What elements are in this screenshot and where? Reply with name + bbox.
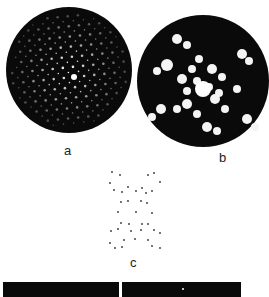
diffraction-spot	[121, 50, 124, 53]
diffraction-spot	[55, 98, 58, 101]
diffraction-spot	[47, 74, 49, 76]
diffraction-spot	[77, 14, 80, 17]
image-motif	[183, 41, 191, 49]
diffraction-spot	[32, 24, 34, 26]
diffraction-spot	[52, 114, 54, 116]
diffraction-spot	[19, 51, 22, 54]
diffraction-spot	[99, 32, 102, 35]
bottom-image-strip-right	[122, 282, 241, 297]
diffraction-spot	[100, 42, 103, 45]
diffraction-spot	[78, 71, 80, 73]
schematic-dot	[141, 187, 143, 189]
diffraction-spot	[39, 48, 42, 51]
diffraction-spot	[42, 79, 45, 82]
diffraction-spot	[25, 56, 27, 58]
diffraction-spot	[83, 121, 85, 123]
diffraction-spot	[28, 86, 30, 88]
schematic-dot	[110, 230, 112, 232]
diffraction-spot	[98, 69, 100, 71]
diffraction-spot	[37, 75, 39, 77]
schematic-dot	[159, 247, 161, 249]
diffraction-spot	[75, 96, 78, 99]
diffraction-spot	[97, 114, 100, 117]
diffraction-spot	[44, 99, 47, 102]
diffraction-spot	[49, 94, 51, 96]
diffraction-spot	[72, 112, 74, 114]
schematic-dot	[151, 212, 153, 214]
image-motif	[183, 87, 191, 95]
diffraction-spot	[93, 74, 96, 77]
image-motif	[148, 113, 156, 121]
diffraction-spot	[98, 22, 101, 25]
diffraction-spot	[92, 63, 95, 66]
image-motif	[242, 114, 252, 124]
diffraction-spot	[53, 124, 55, 126]
diffraction-spot	[46, 119, 49, 122]
diffraction-spot	[63, 31, 65, 33]
schematic-dot	[153, 172, 155, 174]
schematic-dot	[159, 181, 161, 183]
diffraction-spot	[105, 93, 108, 96]
diffraction-spot	[70, 92, 72, 94]
diffraction-spot	[11, 72, 14, 75]
diffraction-spot	[115, 92, 118, 95]
diffraction-spot	[67, 62, 69, 64]
diffraction-spot	[101, 99, 103, 101]
schematic-dot	[109, 182, 111, 184]
diffraction-spot	[74, 86, 77, 89]
diffraction-spot	[34, 100, 37, 103]
diffraction-spot	[81, 101, 83, 103]
diffraction-spot	[60, 56, 63, 59]
image-motif	[221, 105, 229, 113]
diffraction-spot	[62, 113, 64, 115]
diffraction-spot	[72, 66, 75, 69]
diffraction-spot	[69, 35, 72, 38]
diffraction-spot	[12, 82, 15, 85]
diffraction-spot	[58, 36, 61, 39]
diffraction-spot	[104, 83, 107, 86]
diffraction-spot	[110, 88, 112, 90]
diffraction-spot	[123, 70, 126, 73]
diffraction-spot	[50, 58, 53, 61]
diffraction-spot	[104, 27, 106, 29]
diffraction-spot	[118, 66, 120, 68]
diffraction-spot	[61, 103, 63, 105]
schematic-dot	[147, 174, 149, 176]
diffraction-spot	[43, 33, 45, 35]
diffraction-spot	[60, 93, 62, 95]
diffraction-spot	[102, 109, 104, 111]
panel-label-c: c	[130, 255, 137, 270]
diffraction-spot	[86, 105, 89, 108]
diffraction-spot	[94, 84, 97, 87]
diffraction-spot	[64, 87, 67, 90]
image-motif	[215, 89, 223, 97]
diffraction-spot	[16, 67, 18, 69]
diffraction-spot	[54, 42, 56, 44]
diffraction-spot	[86, 49, 88, 51]
diffraction-spot	[76, 106, 79, 109]
diffraction-spot	[92, 110, 94, 112]
diffraction-spot	[53, 88, 56, 91]
diffraction-spot	[28, 39, 31, 42]
diffraction-spot	[89, 33, 92, 36]
diffraction-spot	[91, 53, 94, 56]
image-motif	[172, 34, 182, 44]
diffraction-spot	[90, 43, 93, 46]
diffraction-spot	[83, 75, 86, 78]
diffraction-spot	[52, 22, 54, 24]
diffraction-spot	[22, 81, 25, 84]
diffraction-spot	[90, 90, 92, 92]
schematic-dot	[128, 223, 130, 225]
schematic-dot	[130, 230, 132, 232]
image-motif	[251, 123, 259, 131]
diffraction-spot	[45, 109, 48, 112]
diffraction-spot	[56, 108, 59, 111]
diffraction-spot	[116, 46, 118, 48]
image-motif	[177, 74, 187, 84]
image-motif	[188, 65, 196, 73]
diffraction-spot	[23, 35, 25, 37]
diffraction-spot	[52, 78, 55, 81]
diffraction-spot	[53, 32, 55, 34]
diffraction-spot	[34, 44, 36, 46]
diffraction-spot	[32, 80, 35, 83]
